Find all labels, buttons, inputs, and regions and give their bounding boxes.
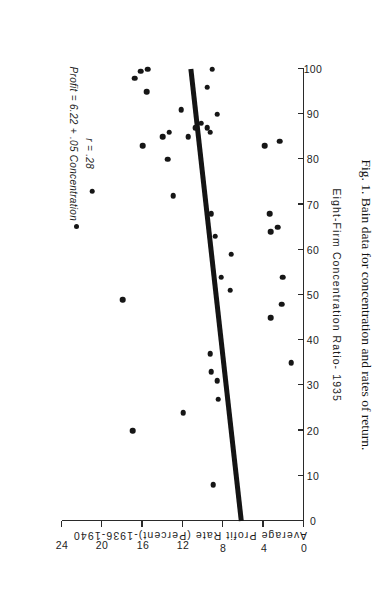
x-axis-title-text: Eight-Firm Concentration Ratio- 1935 bbox=[331, 188, 343, 402]
y-tick-label: 0 bbox=[301, 542, 307, 554]
x-tick-label: 90 bbox=[307, 108, 319, 120]
x-axis-title: Eight-Firm Concentration Ratio- 1935 bbox=[331, 69, 343, 521]
annotation-correlation: r = .28 bbox=[84, 138, 95, 169]
regression-line bbox=[62, 69, 304, 521]
y-tick bbox=[262, 521, 263, 527]
y-tick bbox=[61, 521, 62, 527]
y-tick-label: 8 bbox=[220, 542, 226, 554]
rotated-figure-wrapper: 010203040506070809010004812162024 Profit… bbox=[0, 0, 380, 609]
x-tick-label: 50 bbox=[307, 289, 319, 301]
y-tick bbox=[141, 521, 142, 527]
y-tick bbox=[101, 521, 102, 527]
caption-container: Fig. 1. Bain data for concentration and … bbox=[352, 0, 380, 609]
x-tick-label: 60 bbox=[307, 244, 319, 256]
x-tick-label: 100 bbox=[304, 63, 323, 75]
y-tick bbox=[182, 521, 183, 527]
x-tick-label: 70 bbox=[307, 199, 319, 211]
x-tick-label: 40 bbox=[307, 334, 319, 346]
annotation-equation: Profit = 6.22 + .05 Concentration bbox=[68, 67, 79, 221]
y-axis-title: Average Profit Rate (Percent)-1936-1940 bbox=[65, 530, 315, 542]
x-tick-label: 10 bbox=[307, 470, 319, 482]
figure-root: 010203040506070809010004812162024 Profit… bbox=[0, 0, 380, 609]
y-tick bbox=[222, 521, 223, 527]
plot-area: Profit = 6.22 + .05 Concentration r = .2… bbox=[62, 69, 304, 521]
figure-caption: Fig. 1. Bain data for concentration and … bbox=[358, 159, 374, 450]
x-tick-label: 20 bbox=[307, 425, 319, 437]
scatter-plot: 010203040506070809010004812162024 Profit… bbox=[30, 45, 350, 565]
x-tick-label: 0 bbox=[310, 515, 316, 527]
x-tick-label: 80 bbox=[307, 153, 319, 165]
y-tick-label: 4 bbox=[261, 542, 267, 554]
x-tick-label: 30 bbox=[307, 379, 319, 391]
y-tick bbox=[303, 521, 304, 527]
